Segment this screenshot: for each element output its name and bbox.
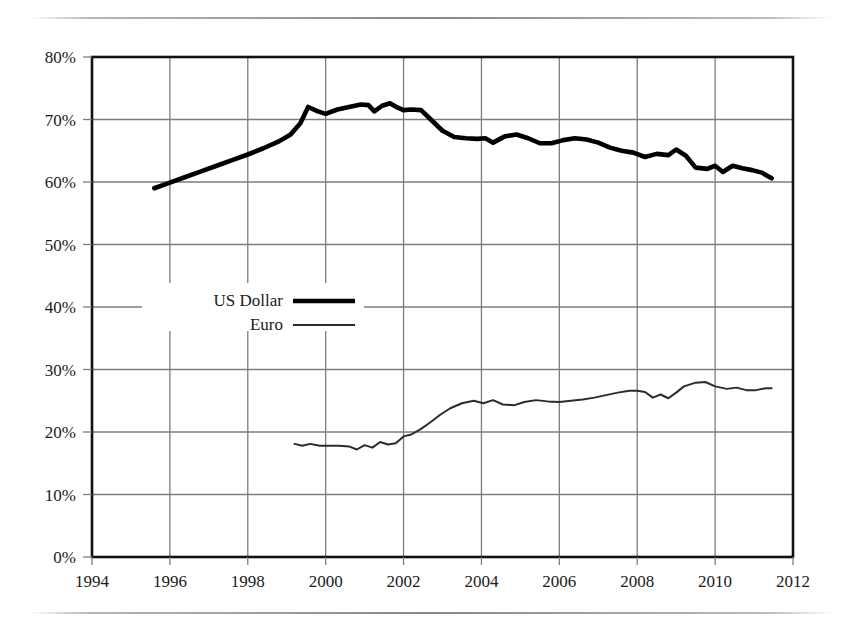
y-axis-tick-label: 30% [45,361,76,380]
y-axis-tick-label: 0% [53,548,76,567]
line-chart: 0%10%20%30%40%50%60%70%80% 1994199619982… [0,0,860,638]
x-axis-tick-label: 1998 [231,572,265,591]
y-axis-tick-label: 10% [45,486,76,505]
chart-legend: US DollarEuro [142,283,364,334]
legend-label-euro: Euro [250,315,283,334]
y-axis-tick-label: 40% [45,298,76,317]
chart-figure: 0%10%20%30%40%50%60%70%80% 1994199619982… [0,0,860,638]
legend-label-us-dollar: US Dollar [214,291,284,310]
x-axis-tick-label: 1994 [75,572,110,591]
y-axis-tick-label: 70% [45,111,76,130]
y-axis-tick-label: 50% [45,236,76,255]
y-axis-tick-label: 60% [45,173,76,192]
x-axis-tick-label: 2000 [309,572,343,591]
x-axis-tick-label: 2002 [387,572,421,591]
x-axis-tick-label: 2012 [776,572,810,591]
y-axis-tick-label: 20% [45,423,76,442]
series-line-euro [295,382,772,450]
y-axis-tick-label: 80% [45,48,76,67]
series-line-us-dollar [154,103,771,188]
data-series [154,103,771,449]
x-axis-tick-label: 2010 [698,572,732,591]
x-axis-tick-label: 2008 [620,572,654,591]
x-axis-tick-label: 2004 [464,572,499,591]
x-axis-tick-label: 1996 [153,572,187,591]
x-axis-tick-label: 2006 [542,572,576,591]
x-axis-labels: 1994199619982000200220042006200820102012 [75,572,810,591]
y-axis-labels: 0%10%20%30%40%50%60%70%80% [45,48,76,567]
